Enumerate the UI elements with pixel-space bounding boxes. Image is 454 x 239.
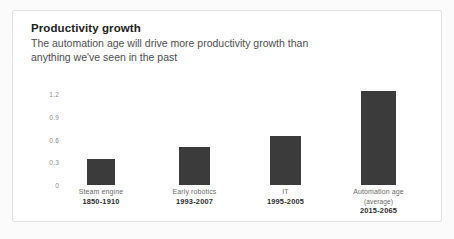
y-axis-tick: 0.6	[33, 136, 59, 143]
chart-header: Productivity growth The automation age w…	[31, 21, 427, 64]
y-axis-tick: 0.3	[33, 159, 59, 166]
bar	[87, 159, 115, 185]
bar-slot: Automation age(average)2015-2065	[361, 83, 396, 185]
x-axis-label-note: (average)	[304, 197, 454, 207]
bar	[179, 147, 210, 185]
x-axis-label-category: Automation age	[304, 187, 454, 197]
chart-subtitle: The automation age will drive more produ…	[31, 37, 331, 64]
bar-group: Steam engine1850-1910Early robotics1993-…	[69, 83, 429, 185]
x-axis-label: Automation age(average)2015-2065	[304, 187, 454, 216]
x-axis-label-period: 2015-2065	[304, 206, 454, 216]
bar-slot: Early robotics1993-2007	[179, 83, 210, 185]
bar-slot: IT1995-2005	[270, 83, 301, 185]
bar-slot: Steam engine1850-1910	[87, 83, 115, 185]
plot-area: 1.20.90.60.30 Steam engine1850-1910Early…	[33, 83, 429, 215]
chart-title: Productivity growth	[31, 21, 427, 36]
y-axis-tick: 1.2	[33, 91, 59, 98]
bar	[270, 136, 301, 185]
chart-card: Productivity growth The automation age w…	[12, 10, 442, 222]
bar	[361, 91, 396, 185]
y-axis-tick: 0.9	[33, 114, 59, 121]
